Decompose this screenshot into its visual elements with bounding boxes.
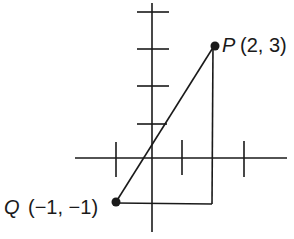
point-q-name: Q bbox=[4, 196, 20, 218]
point-q bbox=[112, 198, 121, 207]
point-q-coords: (−1, −1) bbox=[28, 196, 98, 218]
vertical-leg bbox=[212, 46, 213, 204]
segment-pq bbox=[116, 46, 214, 202]
point-p bbox=[211, 42, 220, 51]
coordinate-plane-diagram: P (2, 3) Q (−1, −1) bbox=[0, 0, 294, 239]
point-p-coords: (2, 3) bbox=[240, 34, 287, 56]
horizontal-leg bbox=[116, 203, 212, 204]
point-p-name: P bbox=[222, 34, 236, 56]
